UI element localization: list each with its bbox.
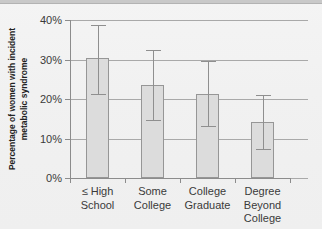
chart-page: Percentage of women with incident metabo…: [0, 0, 322, 229]
page-top-edge: [0, 0, 322, 4]
x-tick-mark: [235, 178, 236, 183]
error-bar-cap-upper: [256, 95, 271, 96]
error-bar-line: [263, 95, 264, 149]
x-axis-category-label: SomeCollege: [125, 185, 180, 212]
x-axis-category-label: CollegeGraduate: [180, 185, 235, 212]
x-axis-category-label-line: ≤ High: [70, 185, 125, 199]
x-axis-category-label: ≤ HighSchool: [70, 185, 125, 212]
error-bar-line: [208, 61, 209, 126]
y-tick-label: 40%: [40, 14, 62, 26]
x-axis-category-label-line: College: [235, 212, 290, 226]
y-axis-title: Percentage of women with incident metabo…: [6, 20, 32, 178]
y-tick-label: 0%: [46, 172, 62, 184]
x-axis-category-label: DegreeBeyondCollege: [235, 185, 290, 226]
error-bar-cap-lower: [146, 120, 161, 121]
y-axis-line: [70, 20, 71, 178]
x-axis-category-label-line: College: [180, 185, 235, 199]
error-bar-cap-upper: [91, 25, 106, 26]
error-bar-line: [98, 25, 99, 94]
x-tick-mark: [125, 178, 126, 183]
plot-area: 0%10%20%30%40% ≤ HighSchoolSomeCollegeCo…: [70, 20, 290, 178]
x-axis-category-label-line: Graduate: [180, 199, 235, 213]
y-tick-label: 20%: [40, 93, 62, 105]
x-axis-category-label-line: School: [70, 199, 125, 213]
x-axis-category-label-line: Degree: [235, 185, 290, 199]
error-bar-cap-lower: [201, 126, 216, 127]
error-bar-cap-lower: [256, 149, 271, 150]
x-axis-category-label-line: Beyond: [235, 199, 290, 213]
error-bar-line: [153, 50, 154, 121]
y-tick-label: 30%: [40, 54, 62, 66]
x-tick-mark: [180, 178, 181, 183]
gridline: [70, 20, 308, 21]
x-axis-category-label-line: Some: [125, 185, 180, 199]
y-tick-label: 10%: [40, 133, 62, 145]
error-bar-cap-upper: [201, 61, 216, 62]
error-bar-cap-upper: [146, 50, 161, 51]
y-axis-title-line2: metabolic syndrome: [19, 58, 29, 141]
x-tick-mark: [290, 178, 291, 183]
y-axis-title-line1: Percentage of women with incident: [7, 28, 17, 170]
x-axis-category-label-line: College: [125, 199, 180, 213]
x-tick-mark: [70, 178, 71, 183]
error-bar-cap-lower: [91, 94, 106, 95]
